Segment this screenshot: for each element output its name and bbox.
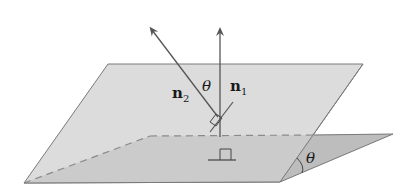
two-planes-diagram: n2 θ n1 θ: [0, 0, 410, 196]
diagram-canvas: n2 θ n1 θ: [0, 0, 410, 196]
label-theta-planes: θ: [306, 149, 315, 167]
label-theta-normals: θ: [202, 77, 211, 95]
